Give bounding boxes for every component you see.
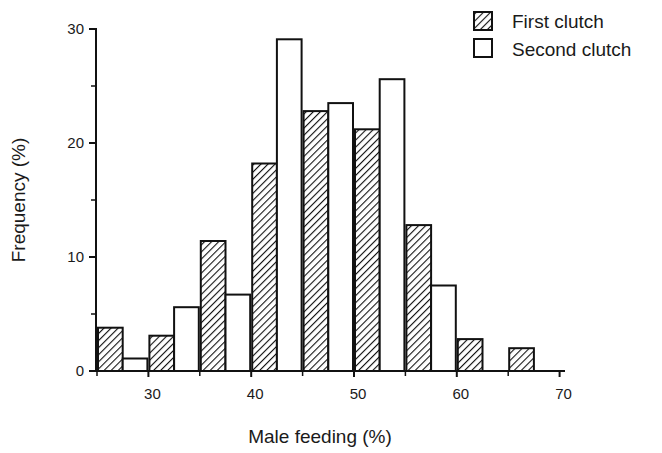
second-clutch-bar [277,39,302,371]
second-clutch-bar [328,103,353,371]
x-tick-label: 70 [555,385,572,402]
first-clutch-bar [355,129,380,371]
y-tick-label: 0 [76,362,84,379]
open-swatch-icon [474,39,492,57]
first-clutch-bar [406,225,431,371]
second-clutch-bar [174,307,199,371]
legend-item-second-clutch: Second clutch [474,39,631,60]
x-tick-label: 40 [247,385,264,402]
y-tick-label: 30 [67,20,84,37]
x-tick-label: 50 [350,385,367,402]
y-axis-title: Frequency (%) [8,138,29,263]
x-axis: 3040506070 [90,371,572,402]
legend-label-first-clutch: First clutch [512,11,604,32]
x-axis-title: Male feeding (%) [248,426,392,447]
x-tick-label: 60 [452,385,469,402]
first-clutch-bar [201,241,226,371]
second-clutch-bar [123,359,148,372]
first-clutch-bar [252,164,277,372]
second-clutch-bar [431,286,456,372]
legend-label-second-clutch: Second clutch [512,39,631,60]
second-clutch-bar [226,295,251,371]
first-clutch-bar [304,111,329,371]
first-clutch-bar [458,339,483,371]
x-tick-label: 30 [144,385,161,402]
bars-group [98,39,534,371]
y-tick-label: 20 [67,134,84,151]
second-clutch-bar [380,79,405,371]
first-clutch-bar [98,328,123,371]
first-clutch-bar [509,348,534,371]
y-tick-label: 10 [67,248,84,265]
legend-item-first-clutch: First clutch [474,11,604,32]
first-clutch-bar [149,336,174,371]
hatched-swatch-icon [474,12,492,30]
histogram-chart: 0102030 3040506070 Male feeding (%) Freq… [0,0,662,453]
y-axis: 0102030 [67,20,96,379]
legend: First clutch Second clutch [474,11,631,60]
